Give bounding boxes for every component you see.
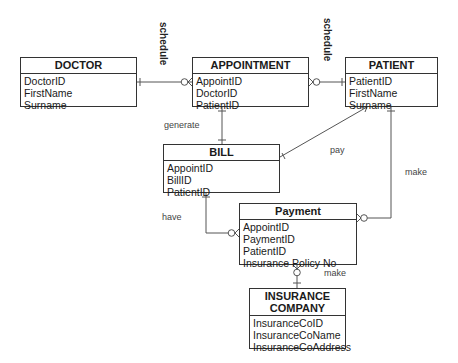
attribute: InsuranceCoName xyxy=(253,329,342,341)
entity-patient[interactable]: PATIENT PatientID FirstName Surname xyxy=(345,57,438,107)
attribute: DoctorID xyxy=(196,87,305,99)
attribute: AppointID xyxy=(167,162,276,174)
relationship-label-generate: generate xyxy=(164,120,200,130)
entity-doctor[interactable]: DOCTOR DoctorID FirstName Surname xyxy=(20,57,137,107)
link-patient-bill xyxy=(280,107,367,159)
attribute: AppointID xyxy=(196,75,305,87)
relationship-label-make-patient: make xyxy=(405,167,427,177)
entity-payment[interactable]: Payment AppointID PaymentID PatientID In… xyxy=(239,203,357,265)
attribute: FirstName xyxy=(24,87,133,99)
attribute: PaymentID xyxy=(243,233,353,245)
attribute: PatientID xyxy=(243,245,353,257)
attribute: PatientID xyxy=(167,186,276,198)
entity-title: INSURANCE COMPANY xyxy=(250,289,345,316)
attribute: InsuranceCoAddress xyxy=(253,341,342,353)
attribute: InsuranceCoID xyxy=(253,317,342,329)
attribute: Surname xyxy=(349,99,434,111)
entity-title: APPOINTMENT xyxy=(193,58,308,74)
link-appointment-patient xyxy=(309,78,345,86)
attribute: PatientID xyxy=(196,99,305,111)
attribute: PatientID xyxy=(349,75,434,87)
attribute: DoctorID xyxy=(24,75,133,87)
entity-appointment[interactable]: APPOINTMENT AppointID DoctorID PatientID xyxy=(192,57,309,107)
attribute: Surname xyxy=(24,99,133,111)
attribute: BillID xyxy=(167,174,276,186)
entity-title: PATIENT xyxy=(346,58,437,74)
attribute: AppointID xyxy=(243,221,353,233)
link-doctor-appointment xyxy=(137,78,192,86)
attribute: FirstName xyxy=(349,87,434,99)
entity-insurance-company[interactable]: INSURANCE COMPANY InsuranceCoID Insuranc… xyxy=(249,288,346,349)
entity-title-line2: COMPANY xyxy=(252,302,343,314)
entity-bill[interactable]: BILL AppointID BillID PatientID xyxy=(163,144,280,193)
relationship-label-pay: pay xyxy=(330,145,345,155)
relationship-label-schedule-doctor: schedule xyxy=(158,22,169,65)
relationship-label-make-insurance: make xyxy=(324,268,346,278)
relationship-label-have: have xyxy=(162,212,182,222)
entity-title: Payment xyxy=(240,204,356,220)
entity-title: BILL xyxy=(164,145,279,161)
entity-title: DOCTOR xyxy=(21,58,136,74)
entity-title-line1: INSURANCE xyxy=(252,290,343,302)
link-patient-payment xyxy=(357,107,395,222)
er-diagram: DOCTOR DoctorID FirstName Surname APPOIN… xyxy=(0,0,458,363)
relationship-label-schedule-patient: schedule xyxy=(322,18,333,61)
